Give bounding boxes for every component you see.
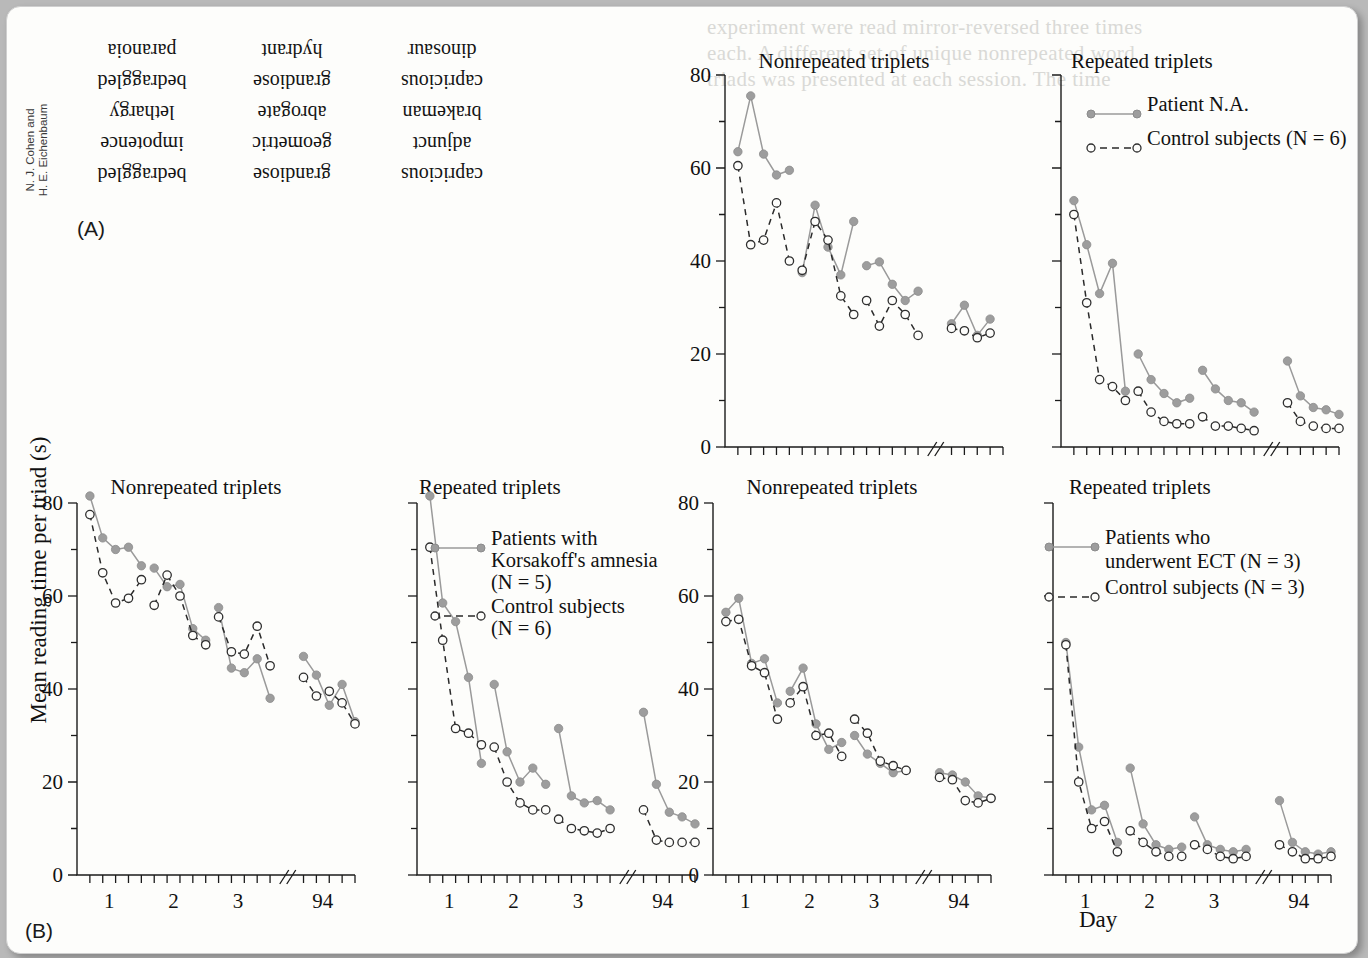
data-point bbox=[202, 641, 210, 649]
data-point bbox=[772, 171, 780, 179]
data-point bbox=[1211, 422, 1219, 430]
data-point bbox=[1216, 852, 1224, 860]
data-point bbox=[760, 669, 768, 677]
legend-label-patient: Patients who underwent ECT (N = 3) bbox=[1105, 525, 1301, 573]
chart-svg: 02040608012394 bbox=[667, 497, 1015, 927]
y-tick-label: 20 bbox=[690, 342, 711, 366]
data-point bbox=[1139, 838, 1147, 846]
x-tick-label: 3 bbox=[1209, 889, 1220, 913]
data-point bbox=[1087, 824, 1095, 832]
data-point bbox=[1275, 796, 1283, 804]
data-point bbox=[1250, 427, 1258, 435]
data-point bbox=[189, 631, 197, 639]
data-point bbox=[567, 792, 575, 800]
word-cell: dinosaur bbox=[367, 39, 517, 62]
data-point bbox=[1224, 396, 1232, 404]
data-point bbox=[299, 652, 307, 660]
word-cell: grandiose bbox=[217, 70, 367, 93]
data-point bbox=[1288, 838, 1296, 846]
data-point bbox=[593, 829, 601, 837]
data-point bbox=[1121, 396, 1129, 404]
data-point bbox=[987, 794, 995, 802]
data-point bbox=[850, 310, 858, 318]
data-point bbox=[639, 708, 647, 716]
data-point bbox=[451, 724, 459, 732]
legend-label-patient: Patients with Korsakoff's amnesia (N = 5… bbox=[491, 527, 658, 593]
data-point bbox=[426, 492, 434, 500]
data-point bbox=[1335, 424, 1343, 432]
data-point bbox=[299, 673, 307, 681]
data-point bbox=[735, 594, 743, 602]
data-point bbox=[266, 662, 274, 670]
data-point bbox=[266, 694, 274, 702]
data-point bbox=[124, 543, 132, 551]
data-point bbox=[1134, 350, 1142, 358]
legend-row-patient: Patients who underwent ECT (N = 3) bbox=[1043, 525, 1304, 573]
data-point bbox=[1301, 855, 1309, 863]
data-point bbox=[1250, 408, 1258, 416]
data-point bbox=[124, 594, 132, 602]
data-point bbox=[490, 680, 498, 688]
data-point bbox=[901, 310, 909, 318]
legend-label-control: Control subjects (N = 3) bbox=[1105, 575, 1304, 599]
data-point bbox=[477, 759, 485, 767]
chart-na-repeated: Repeated triplets Patient N.A. Control s… bbox=[1015, 49, 1345, 469]
data-point bbox=[798, 266, 806, 274]
data-point bbox=[760, 655, 768, 663]
y-tick-label: 80 bbox=[678, 491, 699, 515]
y-axis-label: Mean reading time per triad (s) bbox=[26, 380, 52, 780]
data-point bbox=[772, 199, 780, 207]
data-point bbox=[1108, 259, 1116, 267]
data-point bbox=[824, 236, 832, 244]
data-point bbox=[863, 750, 871, 758]
data-point bbox=[811, 201, 819, 209]
data-point bbox=[1160, 389, 1168, 397]
data-point bbox=[785, 257, 793, 265]
data-point bbox=[240, 669, 248, 677]
data-point bbox=[1083, 241, 1091, 249]
y-tick-label: 0 bbox=[689, 863, 700, 887]
legend-label-patient: Patient N.A. bbox=[1147, 93, 1249, 116]
data-point bbox=[863, 729, 871, 737]
data-point bbox=[176, 592, 184, 600]
margin-credit: N. J. Cohen and H. E. Eichenbaum bbox=[24, 90, 50, 210]
data-point bbox=[163, 571, 171, 579]
data-point bbox=[1229, 855, 1237, 863]
chart-ect-repeated: Repeated triplets 12394 Patients who und… bbox=[1007, 475, 1337, 905]
data-point bbox=[961, 778, 969, 786]
data-point bbox=[837, 292, 845, 300]
x-axis-label: Day bbox=[1079, 907, 1117, 933]
plot-area: 020406080 bbox=[679, 69, 1027, 499]
data-point bbox=[1327, 852, 1335, 860]
word-cell: brakeman bbox=[367, 101, 517, 124]
x-tick-label: 2 bbox=[508, 889, 519, 913]
data-point bbox=[111, 545, 119, 553]
legend-label-control: Control subjects (N = 6) bbox=[1147, 127, 1346, 150]
data-point bbox=[747, 241, 755, 249]
legend-ect: Patients who underwent ECT (N = 3) Contr… bbox=[1043, 525, 1304, 610]
data-point bbox=[960, 327, 968, 335]
data-point bbox=[529, 806, 537, 814]
data-point bbox=[735, 615, 743, 623]
data-point bbox=[1198, 366, 1206, 374]
data-point bbox=[1108, 382, 1116, 390]
data-point bbox=[811, 217, 819, 225]
data-point bbox=[914, 287, 922, 295]
data-point bbox=[1203, 845, 1211, 853]
legend-label-patient-l1: Patients who bbox=[1105, 526, 1210, 548]
data-point bbox=[747, 662, 755, 670]
legend-key-open-dashed bbox=[1043, 575, 1105, 608]
word-cell: abrogate bbox=[217, 101, 367, 124]
chart-svg: 020406080 bbox=[679, 69, 1027, 499]
data-point bbox=[111, 599, 119, 607]
data-point bbox=[838, 752, 846, 760]
data-point bbox=[876, 757, 884, 765]
data-point bbox=[312, 671, 320, 679]
data-point bbox=[947, 324, 955, 332]
legend-label-patient-l2: Korsakoff's amnesia bbox=[491, 549, 658, 571]
x-tick-label: 1 bbox=[740, 889, 751, 913]
data-point bbox=[86, 510, 94, 518]
data-point bbox=[99, 569, 107, 577]
data-point bbox=[1283, 399, 1291, 407]
data-point bbox=[150, 601, 158, 609]
